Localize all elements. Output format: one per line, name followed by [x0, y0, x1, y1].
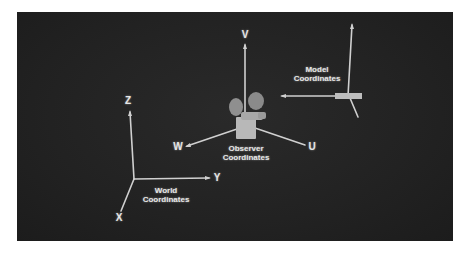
world-y-label: Y: [211, 173, 223, 183]
model-depth-axis: [350, 98, 358, 117]
world-y-axis: [134, 178, 209, 179]
world-z-label: Z: [122, 96, 134, 106]
world-x-axis: [121, 179, 134, 211]
model-vertical-axis: [348, 25, 352, 96]
observer-coordinates-label: ObserverCoordinates: [215, 144, 277, 162]
observer-u-axis: [255, 128, 305, 145]
world-coordinates-label: WorldCoordinates: [135, 186, 197, 204]
model-coordinates-label: ModelCoordinates: [286, 65, 348, 83]
model-block: [335, 93, 362, 99]
world-z-axis: [130, 112, 134, 179]
observer-w-label: W: [172, 142, 184, 152]
coordinate-axes: [0, 0, 471, 254]
observer-u-label: U: [306, 142, 318, 152]
camera-icon: [229, 92, 266, 139]
world-x-label: X: [113, 213, 125, 223]
observer-v-label: V: [239, 30, 251, 40]
